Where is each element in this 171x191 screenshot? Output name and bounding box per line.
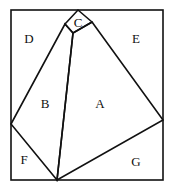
triangle-a	[57, 22, 163, 180]
label-c: C	[74, 15, 83, 30]
label-e: E	[132, 31, 140, 46]
label-b: B	[41, 96, 50, 111]
label-g: G	[131, 154, 140, 169]
geometry-diagram: A B C D E F G	[0, 0, 171, 191]
label-a: A	[95, 96, 105, 111]
label-d: D	[24, 31, 33, 46]
label-f: F	[20, 152, 27, 167]
